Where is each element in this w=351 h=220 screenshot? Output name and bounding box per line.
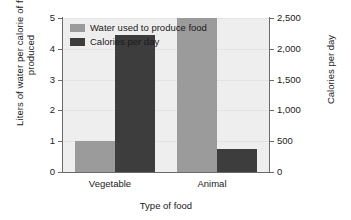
- y-axis-right-title: Calories per day: [325, 15, 336, 125]
- y-tick-left: [58, 18, 62, 19]
- y-tick-label-left: 0: [50, 166, 55, 177]
- y-tick-left: [58, 141, 62, 142]
- y-tick-left: [58, 110, 62, 111]
- y-tick-label-left: 3: [50, 74, 55, 85]
- y-tick-label-left: 4: [50, 43, 55, 54]
- y-tick-right: [270, 49, 274, 50]
- legend-swatch-water: [70, 24, 85, 32]
- y-tick-left: [58, 172, 62, 173]
- legend-label-calories: Calories per day: [90, 36, 159, 47]
- y-tick-label-right: 500: [277, 135, 293, 146]
- chart-figure: Liters of water per calorie of food prod…: [0, 0, 351, 220]
- legend-swatch-calories: [70, 38, 85, 46]
- bar-vegetable-calories: [115, 35, 155, 172]
- y-tick-right: [270, 80, 274, 81]
- y-tick-right: [270, 110, 274, 111]
- legend: Water used to produce food Calories per …: [70, 21, 207, 49]
- legend-item-water: Water used to produce food: [70, 21, 207, 34]
- y-tick-label-right: 2,000: [277, 43, 301, 54]
- y-tick-label-right: 2,500: [277, 12, 301, 23]
- y-tick-left: [58, 49, 62, 50]
- gridline: [63, 80, 269, 81]
- y-tick-label-right: 1,500: [277, 74, 301, 85]
- y-tick-label-left: 1: [50, 135, 55, 146]
- y-tick-label-right: 1,000: [277, 104, 301, 115]
- legend-label-water: Water used to produce food: [90, 22, 207, 33]
- bar-animal-calories: [217, 149, 257, 172]
- y-axis-left-title: Liters of water per calorie of food prod…: [14, 0, 36, 129]
- gridline: [63, 18, 269, 19]
- x-tick-label-vegetable: Vegetable: [75, 178, 145, 189]
- gridline: [63, 110, 269, 111]
- x-axis-title: Type of food: [63, 200, 269, 211]
- y-axis-right-line: [269, 17, 270, 173]
- y-tick-label-left: 5: [50, 12, 55, 23]
- x-axis-line: [62, 172, 270, 173]
- x-tick-label-animal: Animal: [177, 178, 247, 189]
- bar-vegetable-water: [75, 141, 115, 172]
- y-tick-right: [270, 18, 274, 19]
- y-tick-label-left: 2: [50, 104, 55, 115]
- legend-item-calories: Calories per day: [70, 35, 207, 48]
- y-axis-left-line: [62, 17, 63, 173]
- y-tick-right: [270, 172, 274, 173]
- y-tick-label-right: 0: [277, 166, 282, 177]
- y-tick-right: [270, 141, 274, 142]
- y-tick-left: [58, 80, 62, 81]
